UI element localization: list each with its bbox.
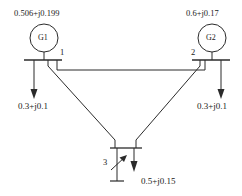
diagram-canvas [0,0,242,196]
load-1-arrowhead [31,89,38,99]
generator-g1-injection-label: 0.506+j0.199 [14,9,59,18]
transmission-line-1-2 [57,60,205,70]
transmission-line-1-3 [48,60,115,148]
bus-3-number-label: 3 [103,158,107,167]
load-3-arrowhead [131,161,138,172]
generator-g1-label: G1 [38,34,48,42]
generator-g2-injection-label: 0.6+j0.17 [186,9,219,18]
load-2-label: 0.3+j0.1 [197,102,227,111]
one-line-diagram: 0.506+j0.199 0.6+j0.17 G1 G2 1 2 3 0.3+j… [0,0,242,196]
transmission-line-2-3 [136,60,200,148]
load-1-label: 0.3+j0.1 [18,102,48,111]
load-3-label: 0.5+j0.15 [141,177,176,186]
bus-1-number-label: 1 [60,48,64,57]
load-2-arrowhead [218,89,225,99]
bus-2-number-label: 2 [191,48,195,57]
generator-g2-label: G2 [206,34,216,42]
